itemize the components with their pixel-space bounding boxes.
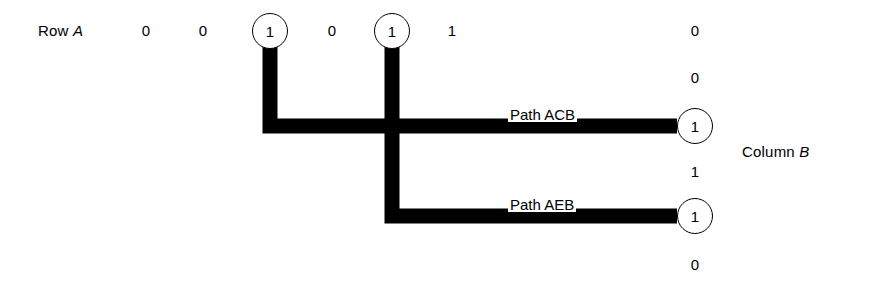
column-b-cell-node: 1 — [677, 198, 713, 234]
row-a-cell-node: 1 — [252, 13, 288, 49]
path-acb-line — [270, 31, 677, 126]
path-aeb-label-static: Path — [510, 196, 544, 213]
path-acb-label-static: Path — [510, 106, 544, 123]
path-aeb-label: Path AEB — [508, 197, 576, 212]
diagram-canvas: Row A Column B 001011001110Path ACBPath … — [0, 0, 880, 294]
path-acb-label-italic: ACB — [544, 106, 575, 123]
path-aeb-label-italic: AEB — [544, 196, 574, 213]
path-lines-layer — [0, 0, 880, 294]
column-b-cell-node: 1 — [677, 108, 713, 144]
row-a-cell-node: 1 — [374, 13, 410, 49]
path-acb-label: Path ACB — [508, 107, 577, 122]
